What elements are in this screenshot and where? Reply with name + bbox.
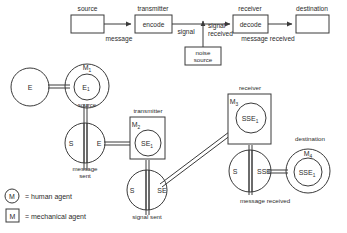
signal-received-label-line2: received bbox=[208, 30, 233, 37]
node-dividers bbox=[84, 123, 252, 210]
caption-source: source bbox=[78, 101, 97, 108]
node-source-inner-label: E1 bbox=[82, 84, 90, 93]
caption-message-received: message received bbox=[240, 197, 291, 204]
caption-message-sent-line2: sent bbox=[79, 172, 91, 179]
node-destination-inner-label: SSE1 bbox=[299, 169, 316, 178]
node-source-agent-label: M1 bbox=[83, 64, 92, 73]
message-edge-label: message bbox=[106, 35, 133, 43]
noise-source-line2: source bbox=[194, 56, 213, 63]
link-signal-sent-to-receiver bbox=[160, 132, 231, 187]
top-shannon-model: source message transmitter encode signal… bbox=[71, 5, 329, 65]
message-received-edge-label: message received bbox=[241, 35, 295, 43]
node-destination-agent-label: M4 bbox=[304, 150, 313, 159]
receiver-box-label: receiver bbox=[238, 5, 262, 12]
legend-mechanical-agent-text: = mechanical agent bbox=[25, 213, 86, 221]
caption-signal-sent: signal sent bbox=[132, 213, 162, 220]
legend-mechanical-agent-symbol: M bbox=[10, 213, 16, 220]
legend-human-agent-text: = human agent bbox=[25, 193, 72, 201]
caption-destination: destination bbox=[295, 135, 325, 142]
node-message-sent-right: E bbox=[97, 140, 102, 147]
source-box-label: source bbox=[78, 5, 98, 12]
signal-edge-label: signal bbox=[177, 28, 195, 36]
destination-box[interactable] bbox=[296, 15, 329, 33]
caption-message-sent-line1: message bbox=[72, 165, 98, 172]
node-signal-sent-left: S bbox=[130, 187, 135, 194]
figure-canvas: source message transmitter encode signal… bbox=[0, 0, 347, 233]
node-message-sent-left: S bbox=[69, 140, 74, 147]
node-signal-sent-right: SE bbox=[157, 187, 167, 194]
legend-human-agent-symbol: M bbox=[9, 193, 15, 200]
link-e-to-source bbox=[48, 85, 70, 88]
legend: M = human agent M = mechanical agent bbox=[5, 189, 86, 222]
caption-transmitter: transmitter bbox=[133, 107, 162, 114]
transmitter-box-label: transmitter bbox=[137, 5, 169, 12]
node-message-received-right: SSE bbox=[257, 168, 271, 175]
source-box[interactable] bbox=[71, 15, 104, 33]
signal-received-label-line1: signal bbox=[208, 22, 226, 30]
noise-source-line1: noise bbox=[196, 49, 211, 56]
decode-text: decode bbox=[240, 21, 262, 28]
destination-box-label: destination bbox=[296, 5, 328, 12]
node-e-circle-label: E bbox=[28, 84, 33, 91]
caption-receiver: receiver bbox=[239, 84, 261, 91]
link-message-sent-to-transmitter bbox=[104, 142, 130, 145]
encode-text: encode bbox=[143, 21, 165, 28]
node-message-received-left: S bbox=[233, 168, 238, 175]
